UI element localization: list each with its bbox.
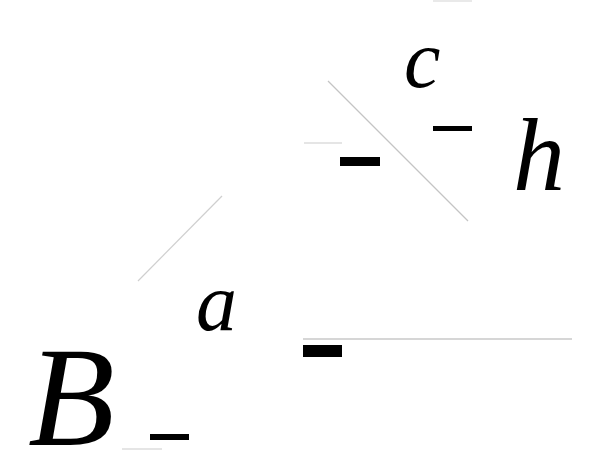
label-c: c: [404, 19, 440, 101]
thick-dash-lower: [303, 345, 342, 357]
diagonal-line-upper: [328, 81, 468, 221]
geometry-diagram: c h a B: [0, 0, 597, 467]
label-h: h: [513, 103, 565, 207]
label-B: B: [28, 326, 115, 467]
dash-after-B: [150, 434, 189, 440]
label-a: a: [196, 262, 237, 344]
dash-under-c: [433, 126, 472, 131]
thick-dash-middle: [340, 157, 380, 166]
